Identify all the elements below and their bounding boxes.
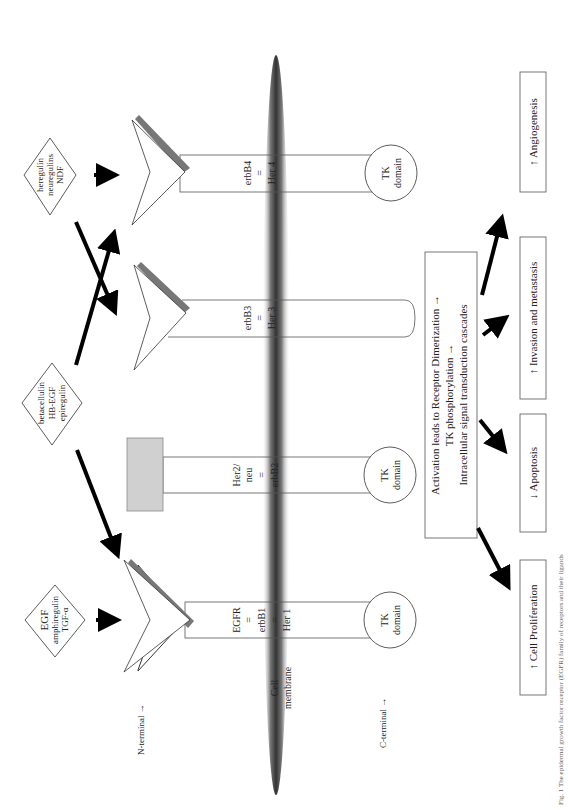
arrow-invasion [483,322,500,335]
ligand-egf-line-1: EGF [38,610,50,631]
ligand-betacellulin-line-2: HB-EGF [47,387,57,420]
ligand-arrows [76,175,115,620]
outcome-proliferation: ↑ Cell Proliferation [527,584,539,669]
her2-extracellular-domain [127,438,163,511]
receptor-erbb3-line-1: erbB3 [242,306,253,330]
receptor-erbb3-line-3: Her 3 [266,307,277,330]
ligand-egf-line-2: amphiregulin [50,596,60,644]
c-terminal-label: C-terminal → [378,698,388,748]
receptor-erbb4-line-1: erbB4 [242,161,253,185]
activation-line-2: TK phosphorylation → [443,344,455,447]
tk-label-erbb4-1: TK [380,166,391,180]
n-terminal-label: N-terminal → [136,704,146,755]
receptor-erbb4-line-3: Her 4 [266,162,277,185]
ligand-egf-line-3: TGF-α [60,607,70,632]
ligand-heregulin-line-2: neuregulins [45,154,55,196]
receptor-egfr-line-3: erbB1 [256,608,267,632]
diagram: EGF amphiregulin TGF-α betacellulin HB-E… [0,0,568,810]
receptor-her2-line-1: Her2/ [231,463,242,486]
ligand-heregulin-line-3: NDF [55,166,65,184]
receptor-egfr-line-5: Her 1 [281,609,292,632]
tk-label-egfr-1: TK [379,613,390,627]
activation-line-3: Intracellular signal transduction cascad… [457,304,469,485]
receptor-her2-line-4: erbB2 [269,463,280,487]
tk-domain [365,145,417,201]
receptor-egfr-line-2: = [243,617,254,623]
receptor-erbb3-line-2: = [254,315,265,321]
outcome-apoptosis: ↓ Apoptosis [527,447,539,499]
receptor-erbb4-line-2: = [254,170,265,176]
tk-label-erbb4-2: domain [392,158,403,188]
cell-membrane-label-2: membrane [282,666,293,709]
cell-membrane-label-1: Cell [269,679,280,696]
receptor-her2-line-2: neu [243,468,254,482]
receptor-egfr-line-1: EGFR [231,607,242,633]
outcome-invasion: ↑ Invasion and metastasis [527,262,539,375]
tk-domain [364,592,416,648]
arrow-apoptosis [480,420,500,445]
ligand-heregulin-line-1: heregulin [35,158,45,192]
figure-caption: Fig. 1 The epidermal growth factor recep… [557,554,565,805]
outcome-angiogenesis: ↑ Angiogenesis [527,98,539,166]
receptor-egfr-line-4: = [269,617,280,623]
tk-label-her2-1: TK [379,468,390,482]
arrow-betacellulin-egfr [77,450,115,548]
activation-line-1: Activation leads to Receptor Dimerizatio… [429,295,441,495]
arrow-proliferation [478,528,505,580]
tk-label-her2-2: domain [391,460,402,490]
receptor-her2-line-3: = [256,472,267,478]
tk-label-egfr-2: domain [391,605,402,635]
tk-domain [364,447,416,503]
ligand-betacellulin-line-1: betacellulin [36,382,46,424]
ligand-betacellulin-line-3: epiregulin [57,384,67,421]
outcome-arrows [478,225,505,580]
arrow-angiogenesis [482,225,500,295]
